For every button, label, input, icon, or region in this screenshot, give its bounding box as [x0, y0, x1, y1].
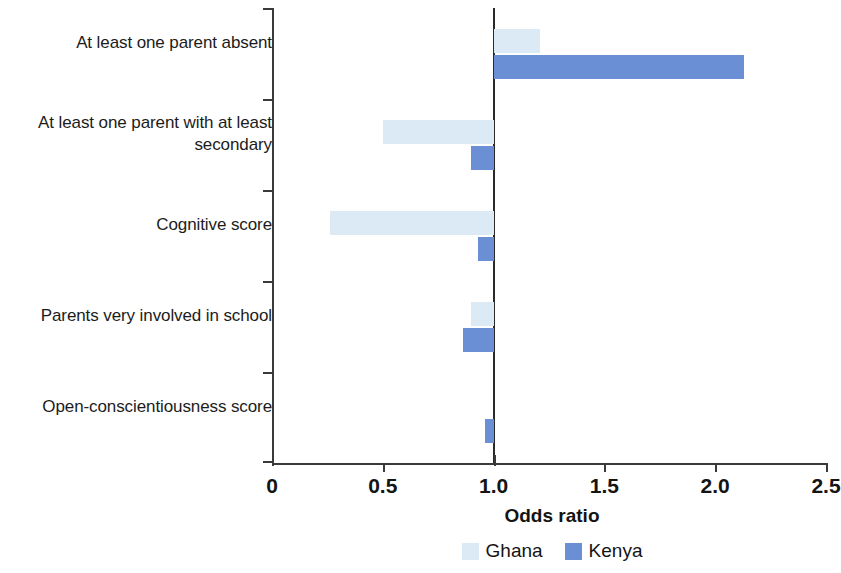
category-tick	[263, 99, 273, 101]
category-label-line: At least one parent with at least	[4, 112, 272, 134]
legend-item-ghana[interactable]: Ghana	[462, 540, 543, 562]
value-tick-label: 0	[266, 474, 278, 498]
legend-item-kenya[interactable]: Kenya	[565, 540, 643, 562]
bar-kenya	[485, 419, 494, 443]
legend-swatch-icon	[462, 543, 479, 560]
bar-kenya	[463, 328, 494, 352]
category-label: Open-conscientiousness score	[4, 396, 272, 418]
value-tick	[604, 463, 606, 472]
category-label-line: Parents very involved in school	[4, 305, 272, 327]
value-tick	[715, 463, 717, 472]
bar-ghana	[494, 29, 541, 53]
bar-ghana	[383, 120, 494, 144]
bar-kenya	[471, 146, 493, 170]
category-axis-labels: At least one parent absentAt least one p…	[0, 0, 272, 470]
x-axis-title: Odds ratio	[272, 505, 832, 527]
category-label: Cognitive score	[4, 214, 272, 236]
chart-legend: GhanaKenya	[272, 540, 832, 562]
category-tick	[263, 372, 273, 374]
value-tick	[383, 463, 385, 472]
category-axis-spine	[272, 8, 274, 463]
category-tick	[263, 190, 273, 192]
bar-kenya	[478, 237, 494, 261]
value-tick-label: 2.5	[811, 474, 840, 498]
category-label: Parents very involved in school	[4, 305, 272, 327]
value-tick-label: 1.0	[479, 474, 508, 498]
legend-label: Kenya	[589, 540, 643, 562]
category-label: At least one parent with at leastseconda…	[4, 112, 272, 156]
value-tick	[494, 455, 496, 466]
legend-label: Ghana	[486, 540, 543, 562]
value-tick-label: 0.5	[368, 474, 397, 498]
value-tick-label: 2.0	[701, 474, 730, 498]
value-axis-line	[272, 463, 826, 465]
bar-ghana	[471, 302, 493, 326]
value-tick	[826, 463, 828, 472]
bar-ghana	[330, 211, 494, 235]
category-label-line: secondary	[4, 134, 272, 156]
category-label: At least one parent absent	[4, 32, 272, 54]
value-tick	[272, 455, 274, 466]
category-label-line: At least one parent absent	[4, 32, 272, 54]
category-tick	[263, 8, 273, 10]
category-tick	[263, 281, 273, 283]
category-label-line: Open-conscientiousness score	[4, 396, 272, 418]
plot-area	[272, 8, 832, 463]
category-label-line: Cognitive score	[4, 214, 272, 236]
bar-kenya	[494, 55, 744, 79]
legend-swatch-icon	[565, 543, 582, 560]
value-tick-label: 1.5	[590, 474, 619, 498]
